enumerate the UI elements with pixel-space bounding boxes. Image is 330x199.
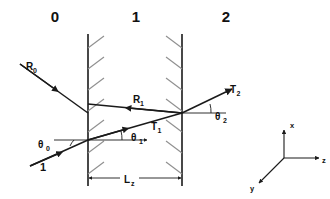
- y-axis-arrow: [259, 158, 284, 183]
- svg-text:1: 1: [140, 100, 144, 107]
- angle-label-theta-0: θ 0: [38, 139, 50, 152]
- transmitted-ray-region2: [182, 89, 232, 113]
- svg-text:θ: θ: [131, 132, 136, 143]
- interface-right: [166, 34, 182, 186]
- svg-text:1: 1: [139, 138, 143, 145]
- svg-text:z: z: [131, 180, 135, 187]
- region-label-2: 2: [222, 8, 230, 25]
- svg-text:θ: θ: [215, 111, 220, 122]
- region-label-0: 0: [51, 8, 59, 25]
- ray-diagram-figure: 0 1 2 R 0 R 1 T 1 T 2 1 θ 0: [0, 0, 330, 199]
- ray-label-t2: T 2: [230, 84, 241, 97]
- svg-text:T: T: [151, 121, 157, 132]
- figure-canvas: 0 1 2 R 0 R 1 T 1 T 2 1 θ 0: [0, 0, 330, 199]
- svg-text:2: 2: [237, 90, 241, 97]
- interface-right-hatching: [166, 36, 182, 174]
- svg-text:L: L: [124, 174, 130, 185]
- svg-text:2: 2: [223, 117, 227, 124]
- ray-label-r1: R 1: [133, 94, 144, 107]
- dimension-label-lz: L z: [124, 174, 135, 187]
- svg-text:T: T: [230, 84, 236, 95]
- region-label-1: 1: [132, 8, 140, 25]
- ray-label-t1: T 1: [151, 121, 162, 134]
- svg-text:θ: θ: [38, 139, 43, 150]
- axis-label-y: y: [250, 184, 255, 193]
- axis-label-x: x: [290, 121, 295, 130]
- svg-text:0: 0: [46, 145, 50, 152]
- ray-label-incident: 1: [40, 161, 46, 173]
- svg-text:1: 1: [158, 127, 162, 134]
- coordinate-triad: [259, 130, 319, 183]
- interface-left: [88, 34, 104, 186]
- svg-text:0: 0: [33, 67, 37, 74]
- angle-label-theta-1: θ 1: [131, 132, 143, 145]
- axis-label-z: z: [322, 156, 326, 165]
- internal-reflected-ray: [88, 104, 182, 113]
